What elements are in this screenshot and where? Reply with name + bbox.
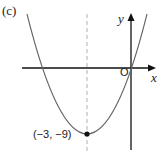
origin-label: O: [120, 67, 129, 78]
y-axis-arrow-icon: [128, 13, 135, 21]
vertex-point: [84, 131, 89, 136]
part-label: (c): [2, 4, 16, 17]
y-axis-label: y: [118, 12, 124, 25]
vertex-label: (−3, −9): [33, 129, 72, 140]
x-axis-label: x: [151, 71, 157, 84]
graph-canvas: [0, 0, 162, 157]
parabola-diagram: (c) y x O (−3, −9): [0, 0, 162, 157]
